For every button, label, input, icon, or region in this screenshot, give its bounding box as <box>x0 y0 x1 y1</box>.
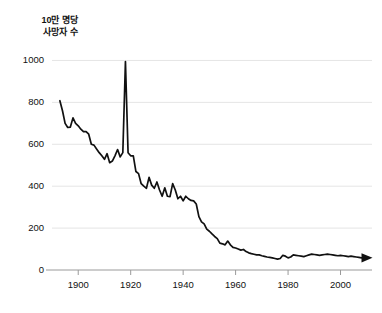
y-axis-tick-label: 0 <box>4 264 44 275</box>
x-axis-tick-label: 2000 <box>317 279 365 290</box>
x-axis-tick-label: 1900 <box>54 279 102 290</box>
x-axis-tick-label: 1920 <box>107 279 155 290</box>
x-axis-ticks <box>78 270 340 275</box>
x-axis-tick-label: 1940 <box>159 279 207 290</box>
y-axis-tick-label: 800 <box>4 96 44 107</box>
y-axis-tick-label: 600 <box>4 138 44 149</box>
x-axis-tick-label: 1980 <box>264 279 312 290</box>
mortality-line <box>60 62 362 260</box>
arrowhead-right-icon <box>362 253 373 262</box>
gridlines <box>52 60 372 228</box>
y-axis-tick-label: 400 <box>4 180 44 191</box>
y-axis-tick-label: 1000 <box>4 54 44 65</box>
infectious-disease-mortality-chart: 10만 명당 사망자 수 02004006008001000 190019201… <box>0 0 382 313</box>
x-axis-tick-label: 1960 <box>212 279 260 290</box>
plot-area <box>0 0 382 313</box>
y-axis-tick-label: 200 <box>4 222 44 233</box>
